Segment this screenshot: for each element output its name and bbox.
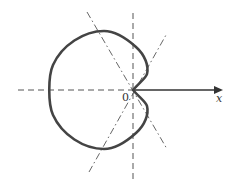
origin-label: 0 <box>122 91 129 104</box>
cardioid-diagram: 0 x <box>0 0 237 191</box>
axis-label-x: x <box>216 92 223 105</box>
